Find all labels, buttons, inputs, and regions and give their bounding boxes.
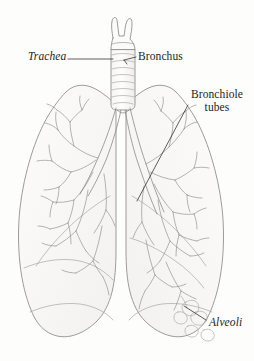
lungs-diagram-figure: of the lungs <box>0 0 254 361</box>
label-bronchus: Bronchus <box>138 50 183 63</box>
label-trachea: Trachea <box>28 50 66 63</box>
label-bronchiole-line2: tubes <box>183 101 251 114</box>
label-alveoli: Alveoli <box>209 316 242 329</box>
trachea-tube <box>111 50 135 110</box>
label-bronchiole-line1: Bronchiole <box>183 88 251 101</box>
label-bronchiole-tubes: Bronchiole tubes <box>183 88 251 114</box>
